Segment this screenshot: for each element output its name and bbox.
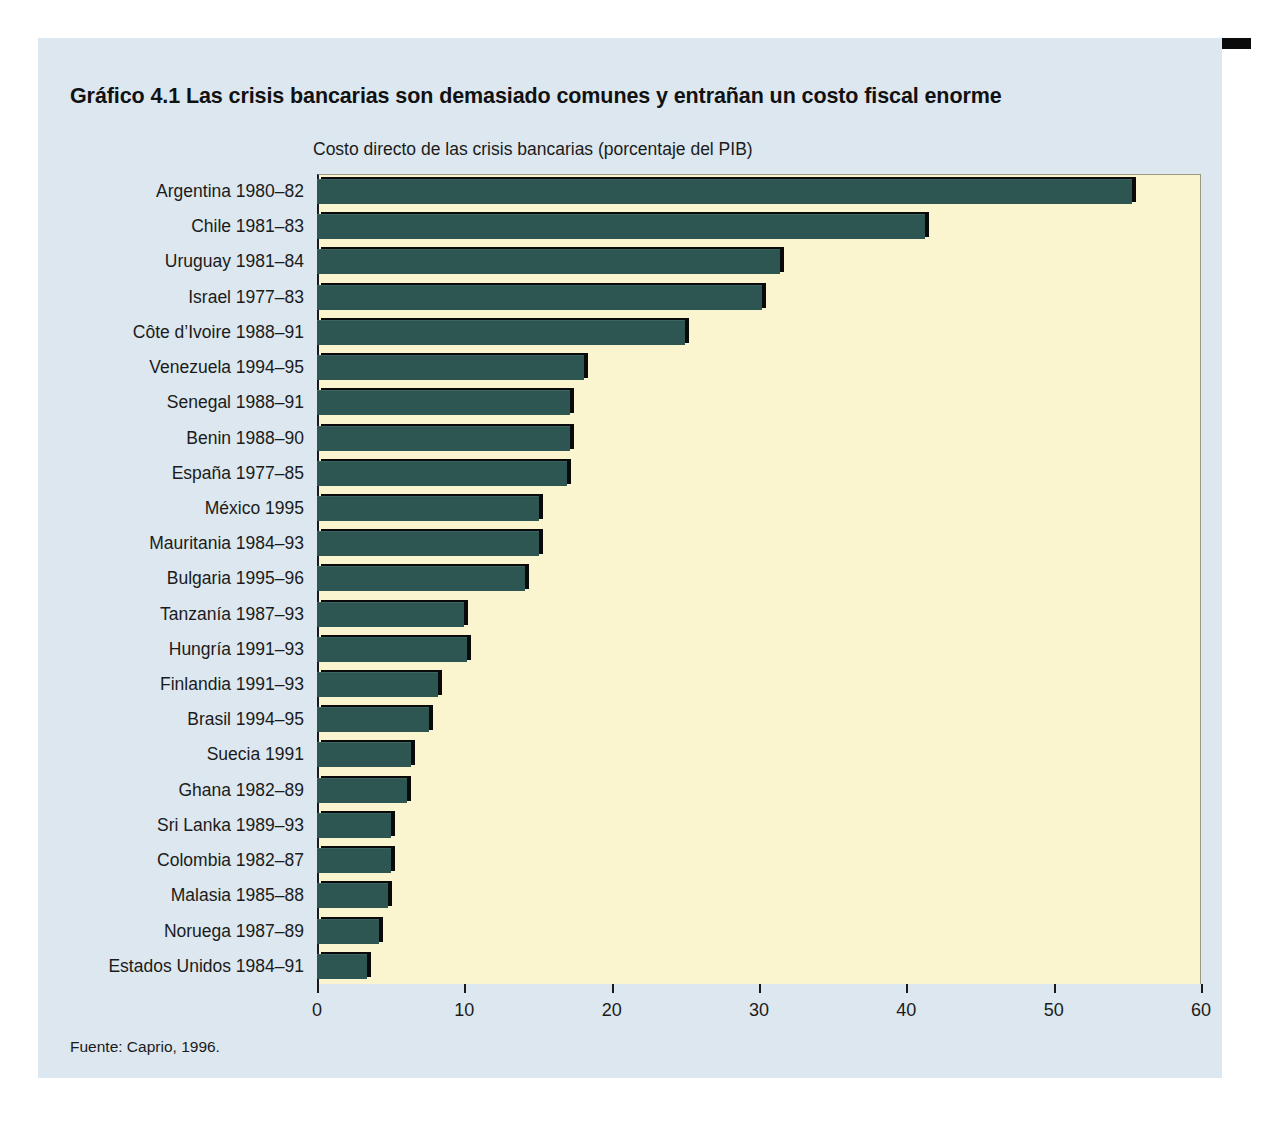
category-label: Chile 1981–83: [191, 209, 304, 244]
x-axis-tick: [906, 984, 908, 993]
bar: [317, 285, 762, 310]
category-axis-labels: Argentina 1980–82Chile 1981–83Uruguay 19…: [38, 174, 304, 984]
bar: [317, 320, 685, 345]
bar: [317, 461, 567, 486]
category-label: Senegal 1988–91: [167, 385, 304, 420]
category-label: Côte d’Ivoire 1988–91: [133, 315, 304, 350]
bar: [317, 355, 584, 380]
figure-panel: Gráfico 4.1 Las crisis bancarias son dem…: [38, 38, 1222, 1078]
category-label: Uruguay 1981–84: [165, 244, 304, 279]
category-label: Benin 1988–90: [186, 421, 304, 456]
category-label: España 1977–85: [172, 456, 304, 491]
bar: [317, 883, 388, 908]
category-label: Argentina 1980–82: [156, 174, 304, 209]
x-axis-tick: [1054, 984, 1056, 993]
category-label: Mauritania 1984–93: [149, 526, 304, 561]
bar: [317, 954, 367, 979]
bar: [317, 707, 429, 732]
bar: [317, 390, 570, 415]
category-label: Ghana 1982–89: [178, 773, 304, 808]
x-axis-tick-label: 0: [312, 1000, 322, 1021]
x-axis: 0102030405060: [317, 984, 1205, 1044]
source-note: Fuente: Caprio, 1996.: [70, 1038, 220, 1056]
category-label: Venezuela 1994–95: [149, 350, 304, 385]
x-axis-tick-label: 60: [1191, 1000, 1211, 1021]
bar: [317, 848, 391, 873]
category-label: Finlandia 1991–93: [160, 667, 304, 702]
x-axis-tick: [612, 984, 614, 993]
bar: [317, 214, 925, 239]
x-axis-tick-label: 50: [1044, 1000, 1064, 1021]
chart-subtitle: Costo directo de las crisis bancarias (p…: [313, 139, 753, 160]
x-axis-tick-label: 40: [896, 1000, 916, 1021]
category-label: Sri Lanka 1989–93: [157, 808, 304, 843]
bar: [317, 919, 379, 944]
x-axis-tick-label: 20: [602, 1000, 622, 1021]
category-label: Israel 1977–83: [188, 280, 304, 315]
bar: [317, 602, 464, 627]
bar: [317, 566, 525, 591]
bar: [317, 249, 780, 274]
x-axis-tick: [1201, 984, 1203, 993]
bar: [317, 179, 1132, 204]
bar: [317, 637, 467, 662]
plot-wrapper: [317, 174, 1201, 984]
bar: [317, 531, 539, 556]
bar: [317, 813, 391, 838]
category-label: Tanzanía 1987–93: [160, 597, 304, 632]
bar: [317, 496, 539, 521]
page-title: Gráfico 4.1 Las crisis bancarias son dem…: [70, 84, 1002, 109]
x-axis-tick-label: 30: [749, 1000, 769, 1021]
category-label: México 1995: [205, 491, 304, 526]
category-label: Hungría 1991–93: [169, 632, 304, 667]
category-label: Estados Unidos 1984–91: [108, 949, 304, 984]
bar: [317, 742, 411, 767]
bar: [317, 672, 438, 697]
bar: [317, 426, 570, 451]
category-label: Colombia 1982–87: [157, 843, 304, 878]
x-axis-tick: [317, 984, 319, 993]
category-label: Brasil 1994–95: [187, 702, 304, 737]
x-axis-tick: [759, 984, 761, 993]
category-label: Noruega 1987–89: [164, 914, 304, 949]
category-label: Malasia 1985–88: [171, 878, 304, 913]
x-axis-tick: [464, 984, 466, 993]
category-label: Suecia 1991: [207, 737, 304, 772]
bar: [317, 778, 407, 803]
category-label: Bulgaria 1995–96: [167, 561, 304, 596]
x-axis-tick-label: 10: [454, 1000, 474, 1021]
